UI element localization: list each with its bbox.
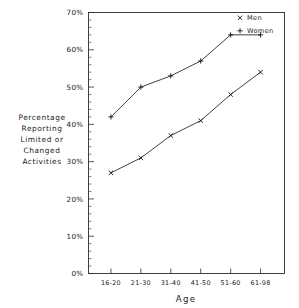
x-axis-tick-label: 61-98	[251, 279, 271, 287]
legend-item-label: Men	[247, 14, 262, 22]
data-point-marker-x	[109, 171, 113, 175]
x-axis-tick-label: 21-30	[131, 279, 151, 287]
y-axis-tick-label: 20%	[66, 195, 83, 204]
data-point-marker-plus	[237, 28, 242, 33]
y-axis-title-line: Activities	[22, 157, 61, 166]
data-series-group	[108, 32, 263, 175]
y-axis: 0%10%20%30%40%50%60%70%	[66, 8, 94, 278]
y-axis-tick-label: 0%	[71, 269, 83, 278]
data-point-marker-x	[228, 92, 232, 96]
y-axis-tick-label: 60%	[66, 45, 83, 54]
x-axis: 16-2021-3031-4041-5051-6061-98	[101, 269, 271, 287]
y-axis-tick-label: 10%	[66, 232, 83, 241]
data-series	[109, 70, 263, 175]
y-axis-tick-label: 50%	[66, 83, 83, 92]
series-line	[111, 72, 261, 173]
x-axis-title: Age	[176, 294, 197, 304]
data-point-marker-x	[199, 118, 203, 122]
y-axis-title-line: Changed	[24, 146, 61, 155]
y-axis-title: PercentageReportingLimited orChangedActi…	[18, 113, 65, 166]
x-axis-tick-label: 41-50	[191, 279, 211, 287]
y-axis-tick-label: 40%	[66, 120, 83, 129]
data-point-marker-x	[258, 70, 262, 74]
data-point-marker-plus	[168, 73, 173, 78]
y-axis-title-line: Limited or	[21, 135, 64, 144]
chart-legend: MenWomen	[237, 14, 273, 35]
y-axis-tick-label: 70%	[66, 8, 83, 17]
x-axis-tick-label: 31-40	[161, 279, 181, 287]
data-series	[108, 32, 263, 119]
y-axis-tick-label: 30%	[66, 157, 83, 166]
x-axis-tick-label: 16-20	[101, 279, 121, 287]
line-chart: 0%10%20%30%40%50%60%70% 16-2021-3031-404…	[0, 0, 299, 308]
data-point-marker-x	[238, 16, 242, 20]
legend-item-label: Women	[247, 27, 274, 35]
y-axis-title-line: Percentage	[18, 113, 65, 122]
series-line	[111, 35, 261, 117]
data-point-marker-x	[139, 156, 143, 160]
chart-container: 0%10%20%30%40%50%60%70% 16-2021-3031-404…	[0, 0, 299, 308]
y-axis-title-line: Reporting	[22, 124, 63, 133]
plot-frame	[89, 13, 285, 274]
x-axis-tick-label: 51-60	[221, 279, 241, 287]
data-point-marker-x	[169, 133, 173, 137]
